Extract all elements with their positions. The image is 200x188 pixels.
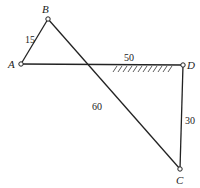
joint-b <box>46 17 50 21</box>
ground-hatching <box>113 66 172 72</box>
label-point-d: D <box>186 59 195 71</box>
length-label-ad: 50 <box>124 52 134 63</box>
link-ad <box>21 64 183 65</box>
joint-c <box>178 167 182 171</box>
label-point-b: B <box>42 3 49 15</box>
label-point-c: C <box>176 174 184 186</box>
length-label-bc: 60 <box>92 101 102 112</box>
joint-d <box>181 63 185 67</box>
linkage-diagram: A B C D 15 50 60 30 <box>0 0 200 188</box>
length-label-cd: 30 <box>185 115 195 126</box>
label-point-a: A <box>7 58 15 70</box>
joint-a <box>19 62 23 66</box>
link-cd <box>180 65 183 169</box>
link-bc <box>48 19 180 169</box>
length-label-ab: 15 <box>25 34 35 45</box>
